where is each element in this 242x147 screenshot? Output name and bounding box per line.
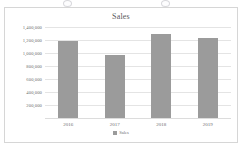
y-axis-tick-label: 800,000 (26, 64, 42, 69)
bar-2018[interactable] (151, 34, 171, 118)
bar-slot: 2019 (185, 27, 232, 118)
y-axis-tick-label: 200,000 (26, 103, 42, 108)
chart-legend[interactable]: Sales (5, 130, 237, 135)
y-axis-tick-label: 1,200,000 (23, 38, 42, 43)
plot-area: 1,400,0001,200,0001,000,000800,000600,00… (45, 27, 231, 118)
y-axis-tick-label: 1,000,000 (23, 51, 42, 56)
x-axis-tick-label: 2016 (45, 122, 92, 127)
chart-screenshot: Sales 1,400,0001,200,0001,000,000800,000… (0, 0, 242, 147)
y-axis-tick-label: 600,000 (26, 77, 42, 82)
top-edge-artifact-right (161, 0, 170, 7)
y-axis-tick-label: 1,400,000 (23, 25, 42, 30)
x-axis-tick-label: 2017 (92, 122, 139, 127)
y-axis-tick-label: 400,000 (26, 90, 42, 95)
chart-container[interactable]: Sales 1,400,0001,200,0001,000,000800,000… (4, 7, 238, 143)
axis-baseline (45, 118, 231, 119)
bar-2016[interactable] (58, 41, 78, 118)
bar-2019[interactable] (198, 38, 218, 118)
bar-slot: 2016 (45, 27, 92, 118)
bars-group: 2016201720182019 (45, 27, 231, 118)
legend-label-sales: Sales (119, 130, 129, 135)
bar-2017[interactable] (105, 55, 125, 118)
chart-title: Sales (5, 12, 237, 21)
x-axis-tick-label: 2019 (185, 122, 232, 127)
bar-slot: 2017 (92, 27, 139, 118)
legend-swatch-icon (113, 131, 117, 135)
bar-slot: 2018 (138, 27, 185, 118)
top-edge-artifact-left (63, 0, 72, 7)
x-axis-tick-label: 2018 (138, 122, 185, 127)
